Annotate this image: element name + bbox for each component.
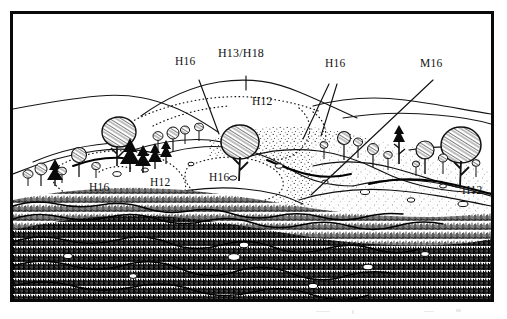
scan-artifact bbox=[316, 311, 330, 312]
habitat-label-h16-lower-left: H16 bbox=[89, 182, 109, 194]
habitat-label-h12-lower-left: H12 bbox=[150, 177, 170, 189]
figure-canvas: H16 H13/H18 H12 H16 M16 H16 H12 H16 H12 bbox=[0, 0, 507, 319]
habitat-label-h16-ridge: H16 bbox=[175, 56, 195, 68]
habitat-label-m16: M16 bbox=[420, 58, 442, 70]
habitat-label-h12-upper: H12 bbox=[252, 96, 272, 108]
habitat-label-h16-lower-mid: H16 bbox=[209, 172, 229, 184]
scan-artifact bbox=[352, 310, 354, 314]
habitat-label-h13-h18: H13/H18 bbox=[218, 47, 264, 59]
scan-artifact bbox=[456, 309, 461, 312]
habitat-label-h12-lower-right: H12 bbox=[462, 185, 482, 197]
scan-artifact bbox=[424, 311, 434, 312]
habitat-label-h16-right: H16 bbox=[325, 58, 345, 70]
